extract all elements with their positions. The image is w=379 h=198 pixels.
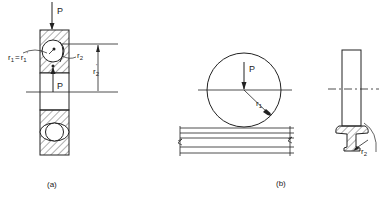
ball-bottom (46, 123, 64, 141)
diagram-canvas: P P r1=r1' r2 r2' (a) P r1 (b) (0, 0, 379, 198)
caption-b: (b) (276, 179, 286, 188)
radius-label-r1: r1=r1' (8, 51, 28, 63)
dimension-label-r2-prime: r2' (93, 63, 100, 77)
flange-radius-label-r2: r2 (361, 147, 368, 157)
load-label-bottom: P (57, 81, 63, 91)
figure-b-roller-on-rail: P r1 (b) r2 (178, 50, 379, 188)
caption-a: (a) (47, 180, 57, 189)
radius-label-r2: r2 (77, 51, 84, 61)
bore-gap (40, 73, 69, 110)
load-label-top: P (57, 6, 63, 16)
load-label: P (249, 64, 255, 74)
arrow-up-icon (96, 45, 100, 52)
arrow-down-icon (50, 23, 55, 30)
figure-a-bearing: P P r1=r1' r2 r2' (a) (8, 2, 118, 189)
wheel-side-view (342, 50, 361, 126)
